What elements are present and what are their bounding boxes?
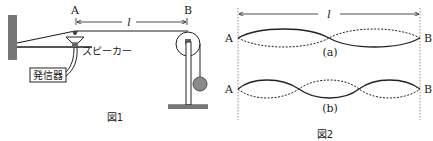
label-a: A bbox=[70, 4, 80, 17]
wall bbox=[8, 15, 17, 60]
diagram-canvas: 発信器 スピーカー A B l 図1 l A bbox=[0, 0, 433, 141]
speaker-label: スピーカー bbox=[82, 46, 132, 57]
wave-b-dashed bbox=[238, 80, 420, 98]
length-label: l bbox=[127, 16, 131, 29]
figure1-caption: 図1 bbox=[107, 112, 123, 123]
pulley-post bbox=[186, 42, 191, 105]
b-label-right: B bbox=[424, 83, 432, 96]
figure2-caption: 図2 bbox=[317, 129, 333, 140]
label-b: B bbox=[184, 4, 192, 17]
panel-b-label: (b) bbox=[322, 102, 338, 115]
a-label-left: A bbox=[224, 32, 234, 45]
oscillator-label: 発信器 bbox=[33, 69, 63, 81]
panel-a-label: (a) bbox=[322, 46, 337, 59]
b-label-left: A bbox=[224, 83, 234, 96]
weight bbox=[193, 77, 207, 91]
length-label-2: l bbox=[327, 8, 331, 21]
base-ground bbox=[168, 105, 208, 109]
wave-b-solid bbox=[238, 80, 420, 98]
a-label-right: B bbox=[424, 32, 432, 45]
figure-1: 発信器 スピーカー A B l 図1 bbox=[8, 4, 208, 123]
figure-2: l A B (a) A B (b) 図2 bbox=[224, 8, 432, 140]
speaker-icon bbox=[66, 31, 84, 47]
wave-a-solid bbox=[238, 29, 420, 47]
